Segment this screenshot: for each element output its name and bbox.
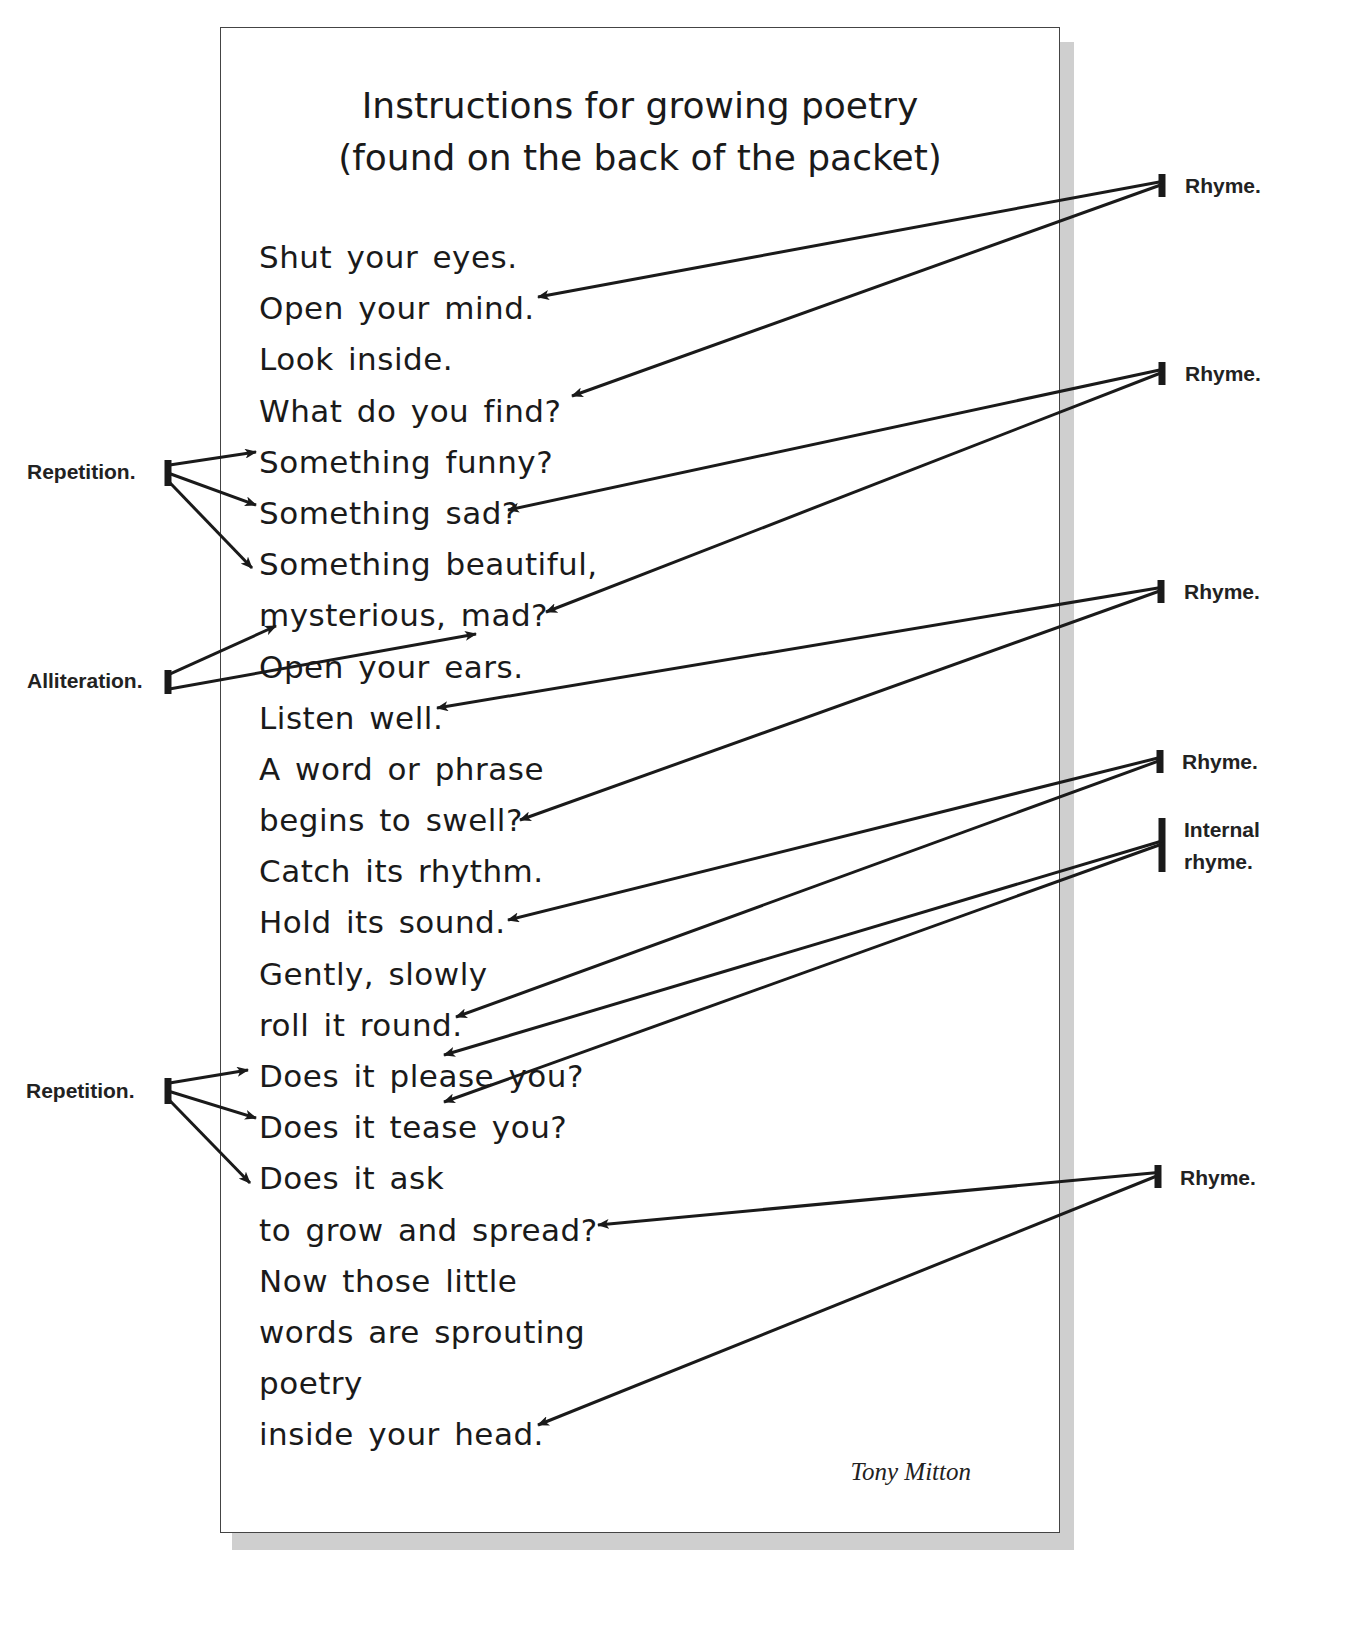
arrow-icon: [520, 591, 1161, 821]
arrow-icon: [168, 626, 276, 675]
arrow-icon: [598, 1173, 1158, 1226]
arrow-icon: [168, 473, 256, 505]
arrow-icon: [437, 588, 1161, 709]
arrow-icon: [572, 185, 1162, 397]
arrow-icon: [508, 370, 1162, 511]
arrow-icon: [168, 1070, 248, 1083]
arrow-icon: [168, 481, 252, 568]
arrow-icon: [538, 1176, 1158, 1426]
arrow-icon: [546, 373, 1162, 613]
arrow-icon: [508, 758, 1160, 921]
arrow-icon: [168, 452, 256, 465]
annotation-arrows: [0, 0, 1348, 1635]
arrow-icon: [444, 841, 1162, 1055]
arrow-icon: [444, 844, 1162, 1102]
arrow-icon: [538, 182, 1162, 298]
arrow-icon: [456, 761, 1160, 1018]
arrow-icon: [168, 634, 476, 689]
